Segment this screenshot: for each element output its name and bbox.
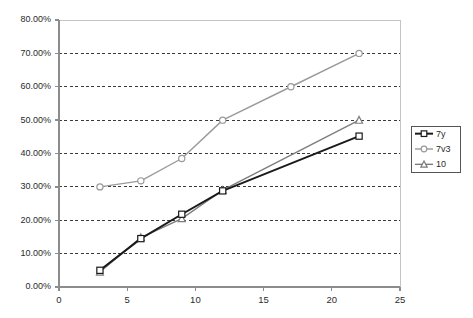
x-axis-tick-label: 15 <box>258 294 269 305</box>
data-point-marker <box>220 117 226 123</box>
y-axis-tick-label: 20.00% <box>20 215 51 225</box>
chart-legend: 7y7v310 <box>411 126 460 172</box>
x-axis-tick-label: 0 <box>56 294 61 305</box>
legend-label: 7v3 <box>436 144 451 154</box>
data-point-marker <box>179 155 185 161</box>
y-axis-tick-label: 40.00% <box>20 148 51 158</box>
x-axis-tick-label: 10 <box>190 294 201 305</box>
y-axis-tick-label: 0.00% <box>25 281 51 291</box>
data-point-marker <box>356 133 362 139</box>
y-axis-tick-label: 10.00% <box>20 248 51 258</box>
legend-label: 7y <box>436 129 446 139</box>
y-axis-tick-label: 60.00% <box>20 81 51 91</box>
data-point-marker <box>356 50 362 56</box>
data-point-marker <box>220 188 226 194</box>
data-point-marker <box>138 178 144 184</box>
x-axis-tick-label: 25 <box>395 294 406 305</box>
line-chart: 0.00%10.00%20.00%30.00%40.00%50.00%60.00… <box>0 0 473 318</box>
y-axis-tick-label: 50.00% <box>20 115 51 125</box>
data-point-marker <box>421 131 427 137</box>
data-point-marker <box>138 236 144 242</box>
y-axis-tick-label: 80.00% <box>20 14 51 24</box>
data-point-marker <box>97 267 103 273</box>
y-axis-tick-label: 30.00% <box>20 181 51 191</box>
legend-label: 10 <box>436 159 446 169</box>
data-point-marker <box>288 84 294 90</box>
x-axis-tick-label: 20 <box>327 294 338 305</box>
y-axis-tick-labels: 0.00%10.00%20.00%30.00%40.00%50.00%60.00… <box>20 14 51 291</box>
data-point-marker <box>421 146 427 152</box>
y-axis-tick-label: 70.00% <box>20 48 51 58</box>
chart-container: 0.00%10.00%20.00%30.00%40.00%50.00%60.00… <box>0 0 473 318</box>
x-axis-tick-label: 5 <box>125 294 130 305</box>
data-point-marker <box>97 184 103 190</box>
data-point-marker <box>179 211 185 217</box>
